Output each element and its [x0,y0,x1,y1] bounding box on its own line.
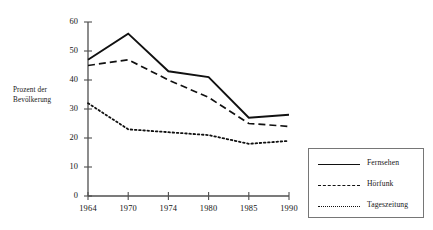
y-tick-label: 50 [56,46,78,55]
x-tick-label: 1985 [232,204,266,213]
y-axis-title: Prozent der Bevölkerung [13,86,73,105]
legend-item-hörfunk[interactable]: Hörfunk [309,176,425,196]
legend-label: Hörfunk [367,179,393,188]
legend-item-tageszeitung[interactable]: Tageszeitung [309,197,425,217]
x-tick-label: 1980 [192,204,226,213]
legend-label: Fernsehen [367,158,399,167]
y-tick-label: 10 [56,162,78,171]
legend-label: Tageszeitung [367,200,408,209]
y-tick-label: 40 [56,75,78,84]
y-tick-label: 20 [56,133,78,142]
series-line-fernsehen [88,34,289,118]
x-tick-label: 1990 [272,204,306,213]
legend-swatch-dashed-icon [318,185,360,188]
legend-swatch-dotted-icon [318,206,360,209]
y-axis-title-line1: Prozent der [13,86,73,96]
x-tick-label: 1964 [71,204,105,213]
legend-item-fernsehen[interactable]: Fernsehen [309,155,425,175]
y-tick-label: 30 [56,104,78,113]
axes-group [88,22,289,196]
y-tick-label: 0 [56,191,78,200]
y-tick-label: 60 [56,17,78,26]
x-tick-label: 1974 [151,204,185,213]
x-tick-label: 1970 [111,204,145,213]
legend-swatch-solid-icon [318,164,360,167]
data-series-group [88,34,289,144]
chart-figure: Prozent der Bevölkerung 0102030405060 19… [0,0,433,230]
chart-legend: FernsehenHörfunkTageszeitung [308,148,424,218]
